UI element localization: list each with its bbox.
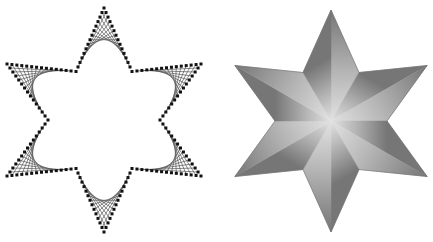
string-node-dot — [44, 115, 47, 118]
string-node-dot — [38, 131, 41, 134]
string-node-dot — [35, 103, 38, 106]
string-node-dot — [194, 71, 197, 74]
string-node-dot — [99, 16, 102, 19]
string-node-dot — [17, 159, 20, 162]
string-node-dot — [10, 63, 13, 66]
string-node-dot — [164, 127, 167, 130]
string-node-dot — [123, 52, 126, 55]
shaded-hexagram-svg — [216, 0, 433, 242]
string-node-dot — [123, 185, 126, 188]
string-node-dot — [83, 185, 86, 188]
string-node-dot — [25, 172, 28, 175]
string-node-dot — [30, 65, 33, 68]
string-node-dot — [111, 212, 114, 215]
string-node-dot — [175, 65, 178, 68]
string-node-dot — [195, 63, 198, 66]
string-node-dot — [35, 66, 38, 69]
string-node-dot — [14, 75, 17, 78]
string-node-dot — [113, 29, 116, 32]
string-node-dot — [103, 7, 106, 10]
string-node-dot — [197, 67, 200, 70]
string-node-dot — [119, 43, 122, 46]
string-node-dot — [182, 87, 185, 90]
string-node-dot — [26, 91, 29, 94]
string-node-dot — [195, 174, 198, 177]
string-node-dot — [155, 170, 158, 173]
string-node-dot — [40, 66, 43, 69]
string-node-dot — [17, 79, 20, 82]
string-node-dot — [109, 20, 112, 23]
string-node-dot — [191, 75, 194, 78]
string-node-dot — [6, 63, 9, 66]
string-node-dot — [93, 29, 96, 32]
string-node-dot — [45, 170, 48, 173]
figure-panel-shaded — [216, 0, 433, 242]
string-node-dot — [185, 83, 188, 86]
string-node-dot — [20, 155, 23, 158]
string-node-dot — [29, 95, 32, 98]
string-node-dot — [32, 139, 35, 142]
string-node-dot — [127, 61, 130, 64]
string-node-dot — [185, 64, 188, 67]
string-node-dot — [6, 175, 9, 178]
string-node-dot — [165, 171, 168, 174]
string-node-dot — [101, 11, 104, 14]
string-node-dot — [8, 171, 11, 174]
string-node-dot — [173, 139, 176, 142]
string-node-dot — [41, 111, 44, 114]
string-node-dot — [155, 67, 158, 70]
string-node-dot — [145, 169, 148, 172]
string-node-dot — [188, 159, 191, 162]
string-node-dot — [20, 173, 23, 176]
string-node-dot — [160, 67, 163, 70]
string-node-dot — [55, 68, 58, 71]
string-node-dot — [135, 69, 138, 72]
string-node-dot — [117, 199, 120, 202]
string-node-dot — [180, 65, 183, 68]
string-node-dot — [129, 172, 132, 175]
string-node-dot — [79, 176, 82, 179]
string-node-dot — [127, 176, 130, 179]
string-node-dot — [65, 168, 68, 171]
string-node-dot — [91, 203, 94, 206]
string-node-dot — [50, 67, 53, 70]
string-node-dot — [85, 47, 88, 50]
string-node-dot — [11, 167, 14, 170]
string-node-dot — [75, 70, 78, 73]
string-node-dot — [60, 68, 63, 71]
string-node-dot — [145, 68, 148, 71]
string-node-dot — [15, 173, 18, 176]
string-node-dot — [23, 87, 26, 90]
string-node-dot — [109, 217, 112, 220]
string-node-dot — [150, 169, 153, 172]
string-node-dot — [45, 67, 48, 70]
string-node-dot — [89, 38, 92, 41]
string-node-dot — [29, 143, 32, 146]
string-node-dot — [65, 69, 68, 72]
string-node-dot — [83, 52, 86, 55]
string-node-dot — [41, 127, 44, 130]
string-node-dot — [176, 95, 179, 98]
string-node-dot — [140, 168, 143, 171]
string-node-dot — [185, 173, 188, 176]
string-node-dot — [176, 143, 179, 146]
string-node-dot — [191, 163, 194, 166]
string-node-dot — [44, 123, 47, 126]
string-node-dot — [87, 194, 90, 197]
string-node-dot — [170, 66, 173, 69]
string-node-dot — [97, 20, 100, 23]
string-node-dot — [79, 61, 82, 64]
string-node-dot — [89, 199, 92, 202]
string-node-dot — [99, 221, 102, 224]
string-node-dot — [30, 172, 33, 175]
string-node-dot — [179, 91, 182, 94]
figure-page — [0, 0, 433, 242]
string-node-dot — [161, 123, 164, 126]
string-node-dot — [165, 66, 168, 69]
string-node-dot — [150, 68, 153, 71]
string-node-dot — [121, 190, 124, 193]
string-node-dot — [164, 111, 167, 114]
string-node-dot — [115, 203, 118, 206]
string-node-dot — [95, 25, 98, 28]
string-art-lines — [10, 13, 198, 228]
